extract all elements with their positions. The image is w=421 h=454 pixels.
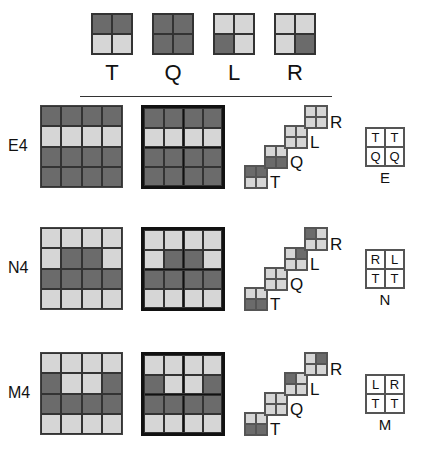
grid-cell <box>164 375 184 395</box>
stack-tile-r <box>304 352 328 376</box>
pattern-grid-n4 <box>40 227 123 310</box>
layout-grid-e: TTQQ <box>365 127 405 167</box>
legend-tile-l <box>213 13 255 55</box>
stack-tile-r <box>304 105 328 129</box>
grid-cell <box>102 147 122 167</box>
tile-cell <box>245 288 256 299</box>
tile-cell <box>265 279 276 290</box>
tile-cell <box>153 34 173 54</box>
layout-cell: L <box>385 250 404 269</box>
grid-cell <box>144 250 164 270</box>
tile-cell <box>256 299 267 310</box>
layout-grid-n: RLTT <box>365 249 405 289</box>
tile-cell <box>265 268 276 279</box>
grid-cell <box>82 289 102 309</box>
grid-cell <box>183 355 203 375</box>
tile-cell <box>275 34 295 54</box>
tile-cell <box>214 34 234 54</box>
grid-cell <box>41 147 61 167</box>
stack-label-t: T <box>270 295 280 315</box>
legend-label-q: Q <box>152 60 194 86</box>
legend-tile-t <box>91 13 133 55</box>
grid-cell <box>61 248 81 268</box>
grid-cell <box>164 108 184 128</box>
layout-grid-m: LRTT <box>365 374 405 414</box>
stack-label-q: Q <box>290 275 303 295</box>
grid-cell <box>164 269 184 289</box>
grid-cell <box>61 394 81 414</box>
grid-cell <box>61 126 81 146</box>
tile-cell <box>295 14 315 34</box>
stack-label-r: R <box>330 113 342 133</box>
legend-label-l: L <box>213 60 255 86</box>
tile-cell <box>305 239 316 250</box>
grid-cell <box>61 289 81 309</box>
grid-cell <box>144 147 164 167</box>
grid-cell <box>183 375 203 395</box>
grid-cell <box>41 394 61 414</box>
tile-cell <box>305 364 316 375</box>
tile-cell <box>285 126 296 137</box>
grid-cell <box>41 353 61 373</box>
layout-cell: R <box>385 375 404 394</box>
layout-cell: R <box>366 250 385 269</box>
grid-cell <box>144 128 164 148</box>
grid-cell <box>203 414 223 434</box>
tile-cell <box>92 34 112 54</box>
grid-cell <box>203 375 223 395</box>
legend-label-r: R <box>274 60 316 86</box>
grid-cell <box>203 108 223 128</box>
grid-cell <box>203 289 223 309</box>
grid-cell <box>183 250 203 270</box>
tile-cell <box>276 404 287 415</box>
stack-tile-r <box>304 227 328 251</box>
stack-label-l: L <box>310 255 319 275</box>
stack-label-l: L <box>310 380 319 400</box>
tile-cell <box>285 384 296 395</box>
legend-tile-r <box>274 13 316 55</box>
grid-cell <box>82 167 102 187</box>
grid-cell <box>203 167 223 187</box>
legend-label-t: T <box>91 60 133 86</box>
grid-cell <box>144 108 164 128</box>
grid-cell <box>164 289 184 309</box>
grid-cell <box>164 147 184 167</box>
layout-cell: T <box>385 394 404 413</box>
stack-label-q: Q <box>290 400 303 420</box>
grid-cell <box>144 230 164 250</box>
stack-label-r: R <box>330 235 342 255</box>
grid-cell <box>164 414 184 434</box>
grid-cell <box>164 394 184 414</box>
grid-cell <box>41 414 61 434</box>
layout-cell: T <box>385 128 404 147</box>
stack-label-t: T <box>270 420 280 440</box>
grid-cell <box>41 228 61 248</box>
grid-cell <box>61 167 81 187</box>
grid-cell <box>82 414 102 434</box>
tile-cell <box>265 157 276 168</box>
grid-cell <box>82 147 102 167</box>
legend-tile-q <box>152 13 194 55</box>
pattern-grid-m4 <box>40 352 123 435</box>
tile-cell <box>305 353 316 364</box>
stack-label-l: L <box>310 133 319 153</box>
grid-cell <box>41 167 61 187</box>
tile-cell <box>92 14 112 34</box>
tile-cell <box>234 14 254 34</box>
grid-cell <box>183 230 203 250</box>
grid-cell <box>102 126 122 146</box>
tile-cell <box>245 177 256 188</box>
grid-cell <box>102 289 122 309</box>
tile-cell <box>296 137 307 148</box>
stack-label-r: R <box>330 360 342 380</box>
tile-cell <box>265 393 276 404</box>
divider-line <box>80 96 332 97</box>
tile-cell <box>112 34 132 54</box>
layout-cell: T <box>366 269 385 288</box>
layout-name-m: M <box>365 416 405 433</box>
tile-cell <box>214 14 234 34</box>
grid-cell <box>144 394 164 414</box>
layout-cell: L <box>366 375 385 394</box>
layout-cell: Q <box>385 147 404 166</box>
tile-cell <box>245 166 256 177</box>
